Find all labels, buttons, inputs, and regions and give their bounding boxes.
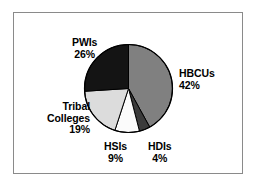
pie-label-pwis-value: 26%: [72, 49, 97, 61]
pie-label-hsis-value: 9%: [104, 153, 127, 165]
pie-chart: [0, 0, 256, 189]
pie-label-pwis-name: PWIs: [72, 37, 97, 49]
pie-label-hdis: HDIs 4%: [148, 141, 172, 164]
pie-label-hsis-name: HSIs: [104, 141, 127, 153]
figure-canvas: HBCUs 42% HDIs 4% HSIs 9% Tribal College…: [0, 0, 256, 189]
pie-label-tribal-colleges: Tribal Colleges 19%: [22, 101, 90, 136]
pie-label-hdis-value: 4%: [148, 153, 172, 165]
pie-label-hsis: HSIs 9%: [104, 141, 127, 164]
pie-label-pwis: PWIs 26%: [72, 37, 97, 60]
pie-label-hdis-name: HDIs: [148, 141, 172, 153]
pie-label-hbcus-value: 42%: [179, 80, 215, 92]
pie-label-tribal-colleges-name-line1: Tribal: [22, 101, 90, 113]
pie-label-hbcus-name: HBCUs: [179, 68, 215, 80]
pie-label-hbcus: HBCUs 42%: [179, 68, 215, 91]
pie-label-tribal-colleges-value: 19%: [22, 124, 90, 136]
